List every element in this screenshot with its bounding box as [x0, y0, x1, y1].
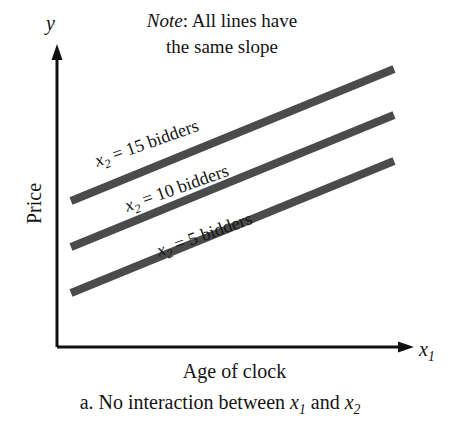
x-axis	[57, 342, 414, 353]
series-lines	[71, 69, 394, 293]
caption-variable-2: x	[345, 391, 354, 413]
figure-caption: a. No interaction between x1 and x2	[0, 391, 440, 418]
caption-subscript-1: 1	[299, 402, 306, 417]
figure-container: Note: All lines have the same slope y x1…	[0, 0, 467, 437]
x-axis-symbol-subscript: 1	[428, 349, 435, 364]
y-axis-title: Price	[23, 164, 46, 244]
x-axis-title: Age of clock	[57, 360, 412, 383]
x-axis-symbol-text: x	[419, 338, 428, 360]
y-axis	[52, 44, 63, 347]
caption-subscript-2: 2	[354, 402, 361, 417]
caption-variable-1: x	[290, 391, 299, 413]
caption-prefix: a. No interaction between	[80, 391, 290, 413]
y-axis-symbol: y	[46, 12, 55, 35]
y-axis-arrowhead	[52, 44, 63, 60]
x-axis-arrowhead	[398, 342, 414, 353]
x-axis-symbol: x1	[419, 338, 435, 365]
caption-middle: and	[306, 391, 345, 413]
y-axis-symbol-text: y	[46, 12, 55, 34]
